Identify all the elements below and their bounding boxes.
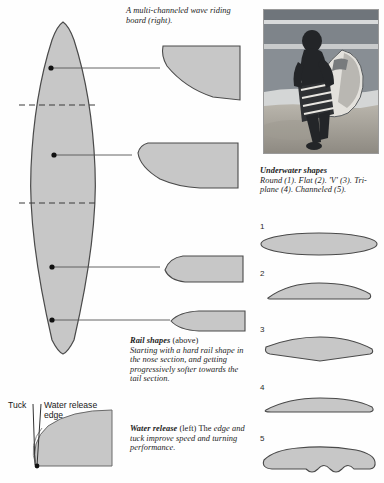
rail-shapes-body: Starting with a hard rail shape in the n… [130,346,244,384]
water-release-qualifier: (left) The [179,424,211,433]
leader-dot-2 [51,152,56,157]
underwater-shapes-caption: Underwater shapes Round (1). Flat (2). '… [260,166,380,195]
underwater-shape-number-2: 2 [260,269,264,278]
rail-shapes-heading: Rail shapes [130,336,170,345]
surfboard-outline [31,22,96,354]
underwater-shape-round [258,231,380,257]
underwater-shapes-body: Round (1). Flat (2). 'V' (3). Tri-plane … [260,176,367,195]
rail-shapes-qualifier: (above) [173,336,199,345]
tuck-label: Tuck [8,400,26,410]
rail-section-tail-lower [165,308,260,336]
surfer-photo-image [264,10,378,153]
leader-dot-1 [48,65,53,70]
underwater-shape-channeled [258,444,380,478]
underwater-shape-number-1: 1 [260,222,264,231]
water-release-heading: Water release [130,424,177,433]
rail-section-nose [155,40,260,104]
underwater-shape-number-3: 3 [260,325,264,334]
underwater-shape-number-4: 4 [260,383,264,392]
rail-section-tail-upper [155,248,260,290]
underwater-shapes-heading: Underwater shapes [260,166,327,175]
leader-dot-3 [49,264,54,269]
edge-point-marker [35,464,40,469]
rail-section-mid [130,133,252,195]
leader-dot-4 [49,317,54,322]
underwater-shape-vee [258,335,380,365]
underwater-shape-tri-plane [258,394,380,418]
surfer-photo [263,9,379,154]
rail-shapes-caption: Rail shapes (above) Starting with a hard… [130,336,246,384]
edge-label-line1: Water release [44,400,97,410]
water-release-caption: Water release (left) The edge and tuck i… [130,424,246,453]
underwater-shape-number-5: 5 [260,434,264,443]
edge-label-line2: edge [44,410,63,420]
water-release-edge-label: Water release edge [44,400,122,420]
figure-page: A multi-channeled wave riding board (rig… [0,0,384,483]
underwater-shape-flat [258,280,380,304]
